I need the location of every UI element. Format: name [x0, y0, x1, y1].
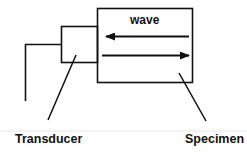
transducer-cable — [26, 45, 62, 102]
transducer-leader-line — [48, 55, 76, 120]
diagram-canvas: wave Transducer Specimen — [0, 0, 247, 160]
specimen-label: Specimen — [185, 133, 244, 146]
wave-label: wave — [130, 14, 159, 26]
transducer-label: Transducer — [15, 133, 82, 146]
transducer-box — [62, 27, 98, 63]
